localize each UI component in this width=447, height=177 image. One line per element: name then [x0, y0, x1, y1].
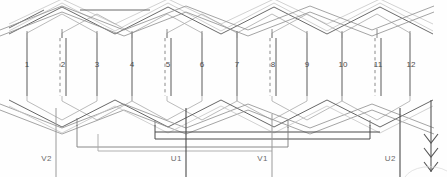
bottom-chevron-layer-dark: [9, 100, 433, 127]
top-end-winding-group: [0, 0, 434, 38]
winding-diagram: 1 2 3 4 5 6 7 8 9 10 11 12 V2 U1 V1 U2: [0, 0, 447, 177]
bottom-chevron-layer-light: [27, 96, 410, 120]
top-connector-stubs: [27, 29, 410, 38]
slot-conductors-dashed: [60, 38, 375, 96]
slot-label-2: 2: [61, 60, 65, 69]
winding-schematic-canvas: [0, 0, 447, 177]
slot-label-12: 12: [407, 60, 416, 69]
terminal-lead-group: [56, 108, 400, 177]
slot-conductors-solid: [27, 38, 410, 96]
slot-label-9: 9: [305, 60, 309, 69]
slot-label-1: 1: [25, 60, 29, 69]
slot-conductor-group: [27, 38, 410, 96]
bus-mid: [77, 125, 288, 147]
background-arc-artifact: [405, 167, 447, 177]
rotation-direction-arrow: [424, 100, 438, 172]
slot-label-11: 11: [374, 60, 382, 69]
top-chevron-layer-faint: [9, 0, 433, 31]
slot-label-5: 5: [166, 60, 170, 69]
slot-label-6: 6: [200, 60, 204, 69]
terminal-label-v1: V1: [257, 154, 268, 163]
bus-light-u: [98, 134, 272, 151]
slot-label-10: 10: [339, 60, 348, 69]
slot-label-7: 7: [235, 60, 239, 69]
terminal-label-u2: U2: [385, 154, 396, 163]
phase-interconnect-group: [77, 118, 380, 151]
bottom-sweep-lines: [0, 104, 434, 134]
terminal-label-u1: U1: [171, 154, 182, 163]
slot-label-3: 3: [95, 60, 99, 69]
bottom-end-winding-group: [0, 96, 434, 134]
bus-light: [98, 134, 272, 151]
slot-label-8: 8: [271, 60, 275, 69]
bus-mid-u: [77, 125, 288, 147]
terminal-label-v2: V2: [41, 154, 52, 163]
slot-label-4: 4: [130, 60, 134, 69]
top-chevron-layer-dark: [9, 7, 433, 34]
